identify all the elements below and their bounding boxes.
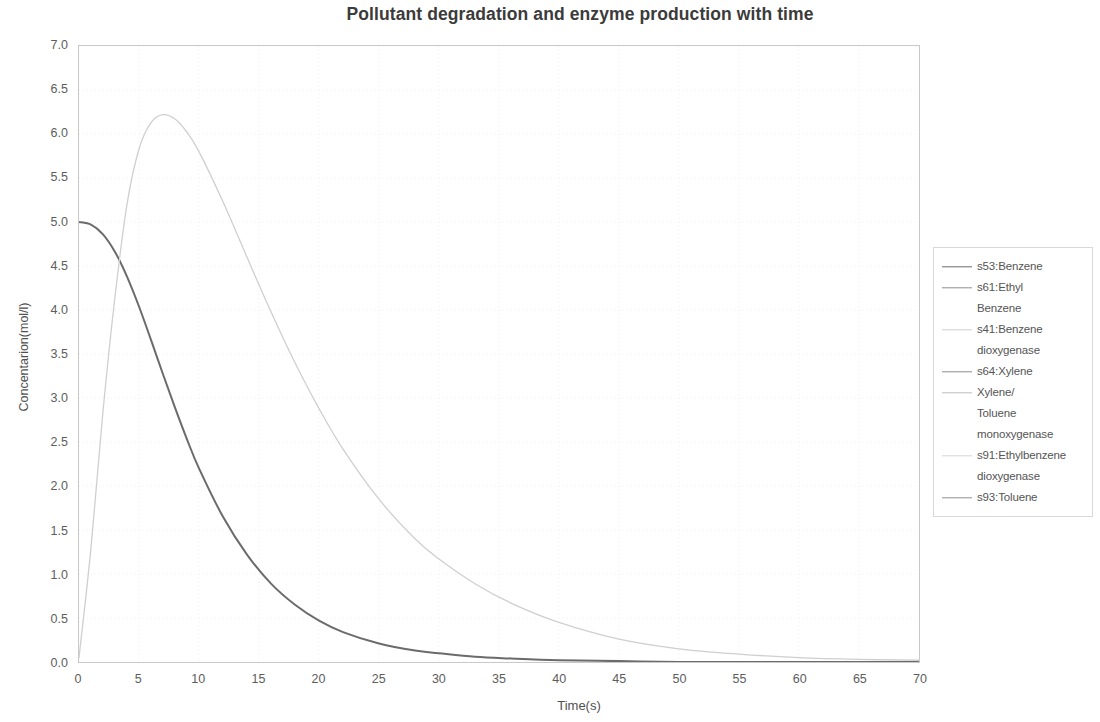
plot-area <box>78 45 920 663</box>
legend-item[interactable]: s61:Ethyl <box>940 277 1089 298</box>
legend-label: dioxygenase <box>977 340 1040 361</box>
legend-item[interactable]: s91:Ethylbenzene <box>940 445 1089 466</box>
x-tick-label: 70 <box>900 672 940 686</box>
legend-item[interactable]: s53:Benzene <box>940 256 1089 277</box>
x-tick-label: 40 <box>539 672 579 686</box>
legend-label: s41:Benzene <box>977 319 1043 340</box>
x-tick-label: 65 <box>840 672 880 686</box>
legend-item-continuation[interactable]: dioxygenase <box>940 466 1089 487</box>
x-tick-label: 0 <box>58 672 98 686</box>
legend-item-continuation[interactable]: monoxygenase <box>940 424 1089 445</box>
y-tick-label: 0.5 <box>22 612 68 626</box>
legend-label: dioxygenase <box>977 466 1040 487</box>
y-tick-label: 1.0 <box>22 568 68 582</box>
x-tick-label: 30 <box>419 672 459 686</box>
x-tick-label: 60 <box>780 672 820 686</box>
grid-lines <box>79 46 919 662</box>
x-tick-label: 25 <box>359 672 399 686</box>
y-tick-label: 6.5 <box>22 82 68 96</box>
legend-label: s53:Benzene <box>977 256 1043 277</box>
y-tick-label: 0.0 <box>22 656 68 670</box>
legend-item[interactable]: s41:Benzene <box>940 319 1089 340</box>
legend-line-swatch-icon <box>940 361 972 382</box>
x-tick-label: 20 <box>299 672 339 686</box>
plot-inner <box>79 46 919 662</box>
y-tick-label: 5.0 <box>22 215 68 229</box>
legend-item-continuation[interactable]: Benzene <box>940 298 1089 319</box>
x-axis-title: Time(s) <box>0 698 1100 713</box>
y-axis-title: Concentarion(mol/l) <box>17 257 31 457</box>
x-tick-label: 15 <box>238 672 278 686</box>
legend-item[interactable]: Xylene/ <box>940 382 1089 403</box>
legend-item-continuation[interactable]: Toluene <box>940 403 1089 424</box>
legend-item-continuation[interactable]: dioxygenase <box>940 340 1089 361</box>
x-tick-label: 10 <box>178 672 218 686</box>
legend-label: Benzene <box>977 298 1021 319</box>
x-tick-label: 5 <box>118 672 158 686</box>
legend-label: s61:Ethyl <box>977 277 1023 298</box>
y-tick-label: 1.5 <box>22 524 68 538</box>
chart-title: Pollutant degradation and enzyme product… <box>0 4 1100 25</box>
legend-line-swatch-icon <box>940 277 972 298</box>
y-tick-label: 5.5 <box>22 170 68 184</box>
chart-svg <box>79 46 919 662</box>
x-tick-label: 35 <box>479 672 519 686</box>
y-tick-label: 6.0 <box>22 126 68 140</box>
legend-label: s93:Toluene <box>977 487 1037 508</box>
legend-line-swatch-icon <box>940 319 972 340</box>
legend-label: s91:Ethylbenzene <box>977 445 1066 466</box>
legend-line-swatch-icon <box>940 256 972 277</box>
y-tick-label: 2.0 <box>22 479 68 493</box>
legend-item[interactable]: s93:Toluene <box>940 487 1089 508</box>
legend-label: s64:Xylene <box>977 361 1032 382</box>
series-group <box>79 115 919 662</box>
x-tick-label: 50 <box>659 672 699 686</box>
legend-item[interactable]: s64:Xylene <box>940 361 1089 382</box>
legend-line-swatch-icon <box>940 487 972 508</box>
chart-page: Pollutant degradation and enzyme product… <box>0 0 1100 722</box>
legend-label: Toluene <box>977 403 1016 424</box>
legend-line-swatch-icon <box>940 445 972 466</box>
x-tick-label: 55 <box>720 672 760 686</box>
legend-label: Xylene/ <box>977 382 1014 403</box>
legend-label: monoxygenase <box>977 424 1053 445</box>
x-tick-label: 45 <box>599 672 639 686</box>
legend-line-swatch-icon <box>940 382 972 403</box>
y-tick-label: 7.0 <box>22 38 68 52</box>
chart-legend[interactable]: s53:Benzenes61:EthylBenzenes41:Benzenedi… <box>933 247 1093 517</box>
